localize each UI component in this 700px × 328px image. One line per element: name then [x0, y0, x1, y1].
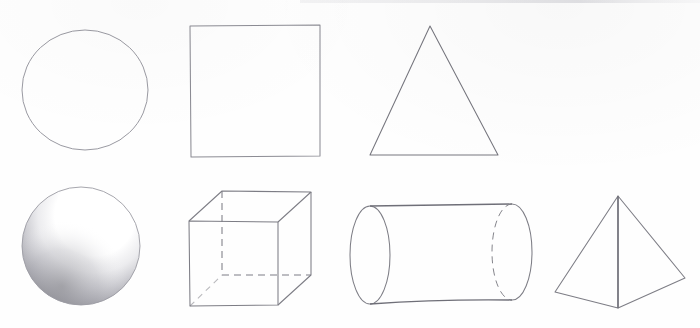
solid-shapes-row — [22, 187, 685, 308]
shape-triangle — [370, 26, 498, 155]
shape-sphere — [22, 187, 140, 305]
circle-outline — [22, 30, 148, 150]
cylinder-top-side — [370, 204, 512, 206]
flat-shapes-row — [22, 25, 498, 157]
shapes-canvas — [0, 0, 700, 328]
shape-pyramid — [555, 196, 685, 308]
cylinder-far-ellipse-visible — [512, 204, 532, 300]
cube-top-face — [189, 191, 311, 222]
shape-square — [190, 25, 320, 157]
pyramid-right-face — [618, 196, 685, 308]
pyramid-left-face — [555, 196, 618, 308]
square-outline — [190, 25, 320, 157]
cylinder-bottom-side — [370, 300, 512, 304]
cube-right-face — [278, 192, 311, 305]
cube-front-face — [189, 221, 278, 306]
shape-cylinder — [350, 204, 532, 304]
drawing-sheet — [0, 0, 700, 328]
shape-circle — [22, 30, 148, 150]
cube-hidden-bottom-edge-front — [190, 275, 222, 306]
triangle-outline — [370, 26, 498, 155]
shape-cube — [189, 191, 311, 306]
paper-smudge — [300, 0, 700, 3]
cylinder-far-ellipse-hidden — [492, 204, 512, 300]
cylinder-near-ellipse — [350, 206, 390, 304]
sphere-core-shadow — [22, 187, 140, 305]
